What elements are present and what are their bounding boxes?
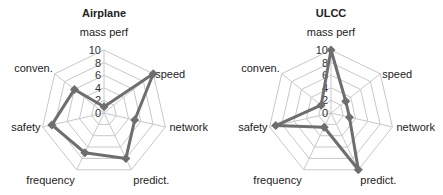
radar-chart-ulcc: ULCC0246810mass perfspeednetworkpredict.… [238, 7, 435, 186]
axis-label: safety [238, 121, 268, 133]
tick-label: 8 [95, 57, 101, 69]
axis-spoke [77, 113, 104, 170]
data-point-marker [130, 116, 139, 125]
tick-label: 0 [95, 107, 101, 119]
data-point-marker [271, 121, 280, 130]
axis-label: network [169, 121, 208, 133]
axis-label: conven. [14, 62, 53, 74]
axis-label: predict. [133, 174, 169, 186]
series-line [276, 50, 359, 170]
radar-charts: Airplane0246810mass perfspeednetworkpred… [0, 0, 443, 195]
axis-label: predict. [360, 174, 396, 186]
tick-label: 10 [316, 44, 328, 56]
tick-label: 0 [322, 107, 328, 119]
axis-label: speed [155, 68, 185, 80]
axis-label: speed [382, 68, 412, 80]
axis-label: safety [11, 121, 41, 133]
data-point-marker [345, 113, 354, 122]
tick-label: 10 [89, 44, 101, 56]
axis-label: frequency [253, 174, 302, 186]
radar-chart-canvas: Airplane0246810mass perfspeednetworkpred… [0, 0, 443, 195]
axis-label: mass perf [307, 26, 356, 38]
axis-spoke [304, 113, 331, 170]
chart-title: ULCC [316, 7, 347, 19]
axis-label: mass perf [80, 26, 129, 38]
radar-chart-airplane: Airplane0246810mass perfspeednetworkpred… [11, 7, 208, 186]
tick-label: 6 [95, 69, 101, 81]
axis-label: frequency [26, 174, 75, 186]
axis-label: network [396, 121, 435, 133]
tick-label: 4 [95, 82, 101, 94]
chart-title: Airplane [82, 7, 126, 19]
axis-label: conven. [241, 62, 280, 74]
